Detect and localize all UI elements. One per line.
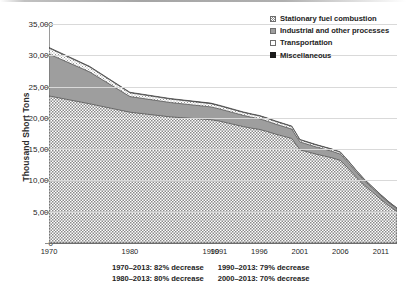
stationary-swatch-icon: [270, 16, 276, 22]
x-axis-tick-label: 2001: [292, 247, 309, 256]
legend-item[interactable]: Transportation: [270, 38, 389, 47]
legend-item-label: Industrial and other processes: [280, 26, 389, 35]
legend-item-label: Stationary fuel combustion: [280, 14, 377, 23]
decrease-annotation: 2000–2013: 70% decrease: [218, 274, 310, 283]
x-axis-tick-label: 1991: [211, 247, 228, 256]
x-axis-tick-label: 1970: [41, 247, 58, 256]
decrease-annotation: 1970–2013: 82% decrease: [112, 263, 204, 272]
decrease-annotation: 1980–2013: 80% decrease: [112, 274, 204, 283]
decrease-annotation: 1990–2013: 79% decrease: [218, 263, 310, 272]
legend-item[interactable]: Miscellaneous: [270, 51, 389, 60]
legend-item[interactable]: Industrial and other processes: [270, 26, 389, 35]
legend-item-label: Miscellaneous: [280, 51, 331, 60]
gridline: [49, 149, 397, 150]
gridline: [49, 118, 397, 119]
transportation-swatch-icon: [270, 40, 276, 46]
industrial-swatch-icon: [270, 28, 276, 34]
legend-item[interactable]: Stationary fuel combustion: [270, 14, 389, 23]
gridline: [49, 180, 397, 181]
decrease-annotations: 1970–2013: 82% decrease1990–2013: 79% de…: [112, 263, 310, 283]
x-axis-tick-label: 1996: [251, 247, 268, 256]
emissions-area-chart: Thousand Short Tons 35,00030,00025,00020…: [0, 0, 406, 300]
x-axis-tick-label: 2011: [373, 247, 389, 256]
chart-legend: Stationary fuel combustionIndustrial and…: [270, 14, 389, 60]
x-axis-tick-label: 1980: [122, 247, 139, 256]
x-axis-tick-label: 2006: [332, 247, 349, 256]
legend-item-label: Transportation: [280, 38, 332, 47]
miscellaneous-swatch-icon: [270, 52, 276, 58]
gridline: [49, 212, 397, 213]
gridline: [49, 87, 397, 88]
